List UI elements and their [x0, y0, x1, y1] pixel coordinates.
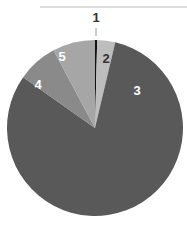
slice-label-2: 2 — [102, 51, 109, 66]
pie-chart: 12345 — [0, 0, 187, 231]
slice-label-5: 5 — [58, 49, 65, 64]
slice-label-1: 1 — [92, 10, 99, 25]
slice-label-4: 4 — [34, 77, 42, 92]
slice-label-3: 3 — [133, 83, 140, 98]
